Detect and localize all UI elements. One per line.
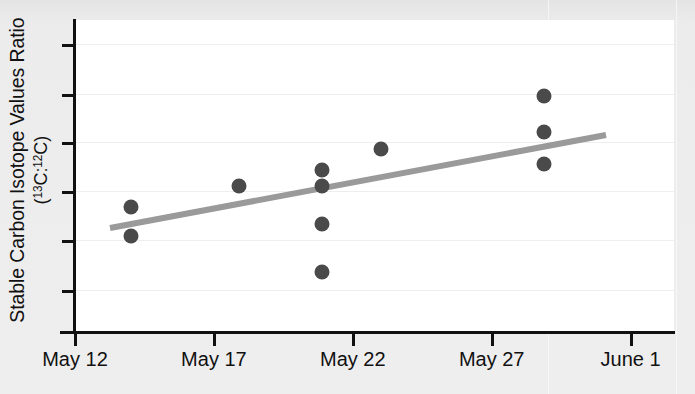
x-axis-tick-label: May 12	[42, 348, 108, 371]
data-point	[231, 179, 246, 194]
y-axis-line	[73, 19, 76, 333]
data-point	[315, 217, 330, 232]
y-axis-tick	[62, 240, 75, 243]
y-axis-tick	[62, 142, 75, 145]
superscript-12: 12	[32, 155, 46, 168]
x-axis-tick	[630, 334, 633, 346]
y-axis-tick	[62, 290, 75, 293]
scan-seam-artifact	[676, 0, 677, 394]
trendline	[76, 20, 674, 331]
data-point	[537, 125, 552, 140]
y-axis-tick	[62, 94, 75, 97]
superscript-13: 13	[32, 185, 46, 198]
data-point	[315, 163, 330, 178]
x-axis-tick	[74, 334, 77, 346]
x-axis-tick	[491, 334, 494, 346]
data-point	[123, 200, 138, 215]
data-point	[537, 89, 552, 104]
y-axis-label: Stable Carbon Isotope Values Ratio (13C:…	[0, 0, 60, 340]
chart-figure: Stable Carbon Isotope Values Ratio (13C:…	[0, 0, 695, 394]
y-axis-tick	[62, 44, 75, 47]
x-axis-tick-label: June 1	[601, 348, 661, 371]
x-axis-tick-label: May 27	[459, 348, 525, 371]
data-point	[315, 265, 330, 280]
data-point	[537, 157, 552, 172]
data-point	[373, 142, 388, 157]
data-point	[315, 179, 330, 194]
data-point	[123, 229, 138, 244]
y-axis-tick	[62, 191, 75, 194]
plot-area	[76, 20, 674, 331]
x-axis-tick	[352, 334, 355, 346]
y-axis-label-line2: (13C:12C)	[32, 136, 52, 205]
x-axis-tick-label: May 17	[181, 348, 247, 371]
x-axis-line	[60, 331, 675, 334]
y-axis-label-line1: Stable Carbon Isotope Values Ratio	[7, 17, 29, 322]
x-axis-tick	[213, 334, 216, 346]
x-axis-tick-label: May 22	[320, 348, 386, 371]
